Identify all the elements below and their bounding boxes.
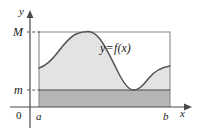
curve-equation-rhs: f(x) [114,41,131,55]
x-axis-label: x [180,108,185,119]
right-bound-label: b [163,111,169,122]
curve-equation-operator: = [105,41,114,55]
figure-container: y x M m 0 a b y=f(x) [0,0,202,134]
y-axis-arrowhead [27,10,34,18]
curve-equation-label: y=f(x) [100,42,131,54]
x-axis-arrowhead [184,104,192,111]
left-bound-label: a [36,111,42,122]
origin-label: 0 [16,110,22,121]
y-axis-label: y [19,6,24,17]
minimum-value-label: m [14,84,23,96]
band-below-minimum-fill [39,90,170,107]
maximum-value-label: M [13,26,23,38]
function-graph-svg [0,0,202,134]
